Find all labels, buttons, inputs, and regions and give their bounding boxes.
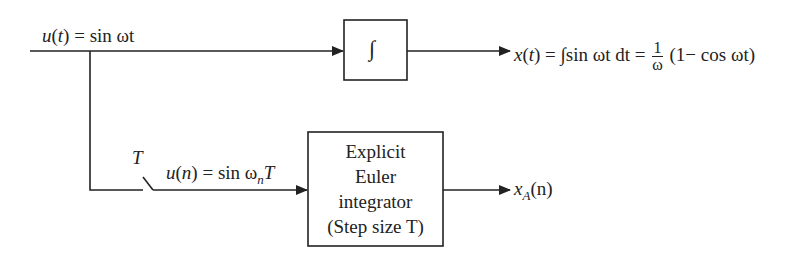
output-tail: (1− cos ωt) xyxy=(670,44,755,65)
input-arg: t xyxy=(58,25,63,46)
fraction-denominator: ω xyxy=(652,57,663,73)
sampled-label: u(n) = sin ωnT xyxy=(166,163,274,186)
sampled-rhs: sin ω xyxy=(218,162,257,183)
sampled-var: u xyxy=(166,162,176,183)
euler-line-2: Euler xyxy=(308,164,443,189)
fraction-numerator: 1 xyxy=(652,40,663,57)
input-var: u xyxy=(42,25,52,46)
euler-block-text: Explicit Euler integrator (Step size T) xyxy=(308,139,443,239)
integral-symbol: ∫ xyxy=(369,38,375,60)
input-rhs: sin ωt xyxy=(90,25,135,46)
output-arg: t xyxy=(529,44,534,65)
sampled-arg: n xyxy=(182,162,192,183)
euler-line-4: (Step size T) xyxy=(308,214,443,239)
sampler-switch xyxy=(143,177,153,190)
euler-line-3: integrator xyxy=(308,189,443,214)
fraction: 1ω xyxy=(652,40,663,73)
integrator-block xyxy=(344,20,407,80)
input-label: u(t) = sin ωt xyxy=(42,26,134,45)
branch-line xyxy=(90,51,143,190)
discrete-output-label: xA(n) xyxy=(514,179,553,202)
euler-line-1: Explicit xyxy=(308,139,443,164)
continuous-output-label: x(t) = ∫sin ωt dt = 1ω (1− cos ωt) xyxy=(514,40,755,73)
output-integral: ∫sin ωt dt = xyxy=(561,44,646,65)
sampled-tail: T xyxy=(264,162,275,183)
sampler-label: T xyxy=(132,148,143,167)
discrete-arg: (n) xyxy=(530,178,552,199)
output-var: x xyxy=(514,44,522,65)
